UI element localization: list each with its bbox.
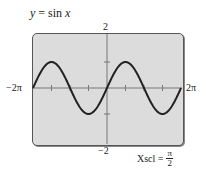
- xscl-label: Xscl = π 2: [137, 149, 173, 168]
- xscl-fraction: π 2: [166, 149, 173, 168]
- xscl-text: Xscl =: [137, 153, 163, 164]
- xscl-den: 2: [168, 159, 173, 168]
- sine-plot: [0, 0, 206, 172]
